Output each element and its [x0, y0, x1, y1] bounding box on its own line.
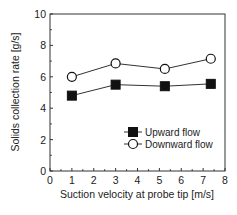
circle-marker	[160, 64, 169, 73]
y-axis-label: Solids collection rate [g/s]	[9, 32, 21, 151]
square-marker	[67, 91, 76, 100]
x-tick-label: 0	[47, 174, 53, 186]
data-series	[67, 54, 215, 100]
series-downward-flow	[67, 54, 215, 81]
series-upward-flow	[67, 79, 215, 100]
legend-label: Downward flow	[145, 139, 214, 150]
x-tick-label: 1	[69, 174, 75, 186]
x-tick-label: 2	[91, 174, 97, 186]
y-tick-label: 4	[40, 102, 46, 114]
square-marker	[206, 79, 215, 88]
x-axis-label: Suction velocity at probe tip [m/s]	[60, 188, 214, 200]
circle-marker	[206, 54, 215, 63]
x-tick-label: 3	[113, 174, 119, 186]
circle-marker	[111, 59, 120, 68]
legend: Upward flowDownward flow	[124, 127, 214, 150]
y-tick-label: 8	[40, 39, 46, 51]
x-tick-label: 6	[178, 174, 184, 186]
chart: 012345678 0246810 Suction velocity at pr…	[0, 0, 237, 215]
square-marker	[111, 80, 120, 89]
x-tick-label: 7	[200, 174, 206, 186]
legend-item: Upward flow	[124, 127, 201, 138]
y-tick-label: 10	[34, 8, 46, 20]
series-line	[72, 84, 211, 96]
series-line	[72, 59, 211, 77]
y-tick-label: 2	[40, 134, 46, 146]
square-marker	[160, 82, 169, 91]
circle-marker	[67, 72, 76, 81]
x-tick-label: 5	[156, 174, 162, 186]
y-tick-label: 0	[40, 165, 46, 177]
x-tick-label: 8	[222, 174, 228, 186]
legend-item: Downward flow	[124, 139, 214, 150]
legend-label: Upward flow	[145, 127, 201, 138]
square-marker	[129, 128, 138, 137]
x-tick-label: 4	[135, 174, 141, 186]
circle-marker	[129, 140, 138, 149]
y-tick-label: 6	[40, 71, 46, 83]
